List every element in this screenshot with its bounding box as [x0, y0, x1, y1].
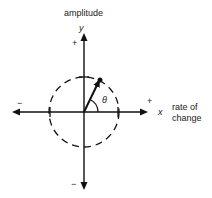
- phasor-diagram: amplitude y + − − + x rate of change θ: [0, 0, 212, 198]
- y-negative-sign: −: [71, 179, 76, 189]
- x-axis-symbol: x: [157, 107, 163, 117]
- phasor-tip-dot: [98, 78, 103, 83]
- y-axis-symbol: y: [78, 23, 84, 33]
- x-axis-title-line1: rate of: [172, 102, 198, 112]
- angle-arc: [90, 100, 98, 113]
- y-axis-title: amplitude: [64, 8, 103, 18]
- x-negative-sign: −: [17, 98, 22, 108]
- y-positive-sign: +: [72, 38, 77, 48]
- x-positive-sign: +: [147, 96, 152, 106]
- x-axis-title-line2: change: [172, 113, 202, 123]
- angle-theta-label: θ: [102, 95, 107, 105]
